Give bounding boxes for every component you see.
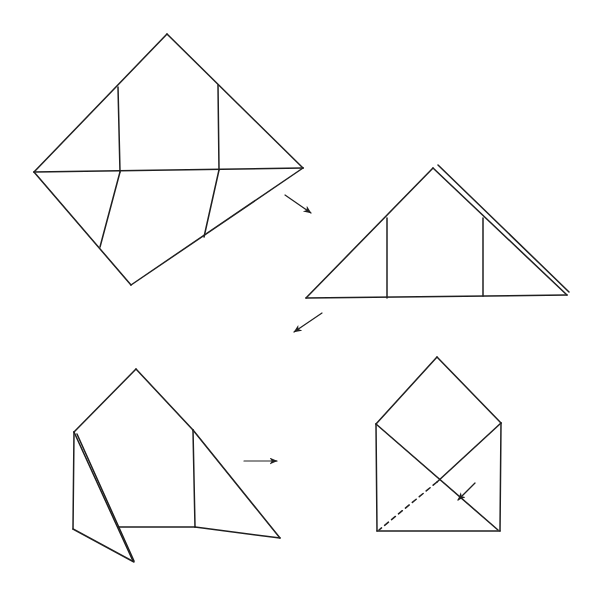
arrow-step1-to-step2 (285, 195, 311, 213)
paper-edge-line (376, 424, 498, 530)
origami-instruction-diagram (0, 0, 602, 596)
paper-edge-line (195, 527, 280, 538)
paper-edge-line (74, 432, 133, 561)
fold-direction-arrow (458, 483, 475, 500)
fold-crease-dashed-line (379, 482, 437, 530)
paper-edge-line (167, 34, 303, 168)
paper-edge-line (73, 432, 74, 529)
paper-edge-line (306, 168, 433, 298)
paper-edge-line (438, 165, 569, 292)
paper-edge-line (100, 172, 120, 247)
paper-edge-line (136, 369, 193, 430)
paper-edge-line (118, 87, 120, 172)
paper-edge-line (500, 423, 501, 531)
paper-edge-line (376, 357, 437, 424)
paper-edge-line (437, 357, 501, 423)
paper-edge-line (218, 85, 219, 170)
paper-edge-line (193, 430, 280, 538)
paper-edge-line (74, 369, 136, 432)
paper-edge-line (34, 34, 167, 172)
step-1-creased-square (34, 34, 303, 285)
paper-edge-line (34, 172, 131, 285)
paper-edge-line (437, 423, 501, 482)
arrow-step2-to-step3 (294, 313, 322, 332)
paper-edge-line (433, 168, 567, 295)
paper-edge-line (34, 168, 303, 172)
step-3-side-flaps-folded (73, 369, 280, 562)
paper-edge-line (77, 434, 134, 561)
paper-edge-line (306, 295, 567, 298)
origami-diagram-canvas (0, 0, 602, 596)
step-4-envelope (376, 357, 501, 531)
step-2-folded-triangle (306, 165, 569, 298)
paper-edge-line (193, 430, 195, 527)
paper-edge-line (131, 168, 303, 285)
paper-edge-line (376, 424, 377, 531)
paper-edge-line (73, 529, 134, 562)
